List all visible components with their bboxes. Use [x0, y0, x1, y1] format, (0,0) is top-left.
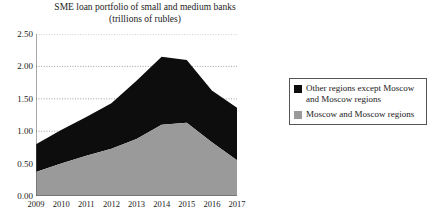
x-tick-label: 2013: [128, 199, 145, 209]
y-tick-label: 2.00: [17, 62, 33, 71]
x-tick-label: 2009: [28, 199, 45, 209]
chart-title: SME loan portfolio of small and medium b…: [0, 2, 290, 14]
x-tick-label: 2016: [203, 199, 220, 209]
chart-subtitle: (trillions of rubles): [0, 14, 290, 26]
y-tick-label: 2.50: [17, 30, 33, 39]
area-chart-svg: [36, 34, 237, 196]
chart-legend: Other regions except Moscow and Moscow r…: [289, 78, 427, 125]
plot-area: [36, 34, 237, 196]
x-tick-label: 2015: [178, 199, 195, 209]
legend-label-moscow: Moscow and Moscow regions: [306, 109, 414, 120]
chart-title-block: SME loan portfolio of small and medium b…: [0, 2, 290, 25]
x-axis-tick-labels: 200920102011201220132014201520162017: [0, 199, 290, 213]
x-tick-label: 2011: [78, 199, 95, 209]
x-tick-label: 2017: [229, 199, 246, 209]
legend-item-moscow[interactable]: Moscow and Moscow regions: [294, 109, 422, 120]
x-tick-label: 2014: [153, 199, 170, 209]
legend-swatch-moscow: [294, 111, 302, 119]
y-tick-label: 1.50: [17, 94, 33, 103]
legend-item-other-regions[interactable]: Other regions except Moscow and Moscow r…: [294, 83, 422, 105]
x-tick-label: 2012: [103, 199, 120, 209]
y-tick-label: 0.50: [17, 159, 33, 168]
y-tick-label: 1.00: [17, 127, 33, 136]
chart-figure: SME loan portfolio of small and medium b…: [0, 0, 432, 224]
y-axis-tick-labels: 0.00 0.50 1.00 1.50 2.00 2.50: [0, 34, 33, 196]
legend-label-other-regions: Other regions except Moscow and Moscow r…: [306, 83, 422, 105]
x-tick-label: 2010: [53, 199, 70, 209]
legend-swatch-other-regions: [294, 85, 302, 93]
